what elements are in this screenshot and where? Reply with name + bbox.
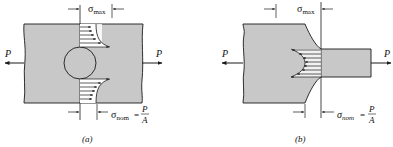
equals-sign: = — [134, 110, 139, 120]
fraction-numerator: P — [368, 104, 375, 114]
sigma-max-dimension: σmax — [264, 3, 333, 18]
circular-hole — [64, 47, 96, 79]
fraction-denominator: A — [141, 115, 148, 125]
load-label-left: P — [221, 48, 228, 59]
svg-text:σmax: σmax — [88, 3, 106, 16]
sigma-nom-dimension: σnom = P A — [293, 104, 376, 125]
svg-text:σnom: σnom — [111, 109, 129, 122]
load-label-right: P — [383, 48, 390, 59]
load-label-right: P — [155, 48, 162, 59]
sigma-nom-subscript: nom — [116, 114, 129, 122]
fraction-numerator: P — [141, 104, 148, 114]
panel-a: P P σmax σnom = P A (a) — [4, 3, 162, 144]
stress-concentration-figure: P P σmax σnom = P A (a) — [0, 0, 393, 147]
sigma-max-subscript: max — [302, 8, 315, 16]
caption-a: (a) — [82, 134, 93, 144]
sigma-nom-subscript: nom — [342, 114, 354, 122]
panel-b: P P σmax σnom = P A (b) — [221, 2, 391, 144]
equals-sign: = — [360, 110, 365, 120]
sigma-max-dimension: σmax — [68, 3, 124, 18]
sigma-max-subscript: max — [93, 8, 106, 16]
fraction-denominator: A — [368, 115, 375, 125]
svg-text:σnom: σnom — [337, 109, 354, 122]
svg-text:σmax: σmax — [297, 3, 315, 16]
load-label-left: P — [4, 48, 11, 59]
caption-b: (b) — [295, 134, 306, 144]
